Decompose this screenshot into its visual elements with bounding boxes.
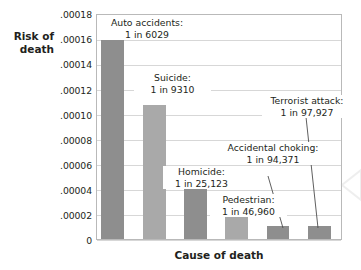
bar-terrorist-attack	[308, 226, 331, 239]
data-label-auto-accidents: Auto accidents: 1 in 6029	[100, 17, 194, 40]
gridline	[97, 240, 341, 241]
y-tick-label: .00008	[48, 135, 92, 146]
y-tick-label: .00004	[48, 185, 92, 196]
data-label-accidental-choking: Accidental choking: 1 in 94,371	[222, 142, 324, 165]
y-tick-label: .00014	[48, 59, 92, 70]
gridline	[97, 65, 341, 66]
y-tick-label: .00012	[48, 85, 92, 96]
bar-accidental-choking	[267, 226, 289, 239]
data-label-suicide: Suicide: 1 in 9310	[134, 72, 211, 95]
y-axis-tick-labels: .00018 .00016 .00014 .00012 .00010 .0000…	[46, 0, 92, 270]
y-tick-label: .00006	[48, 160, 92, 171]
data-label-pedestrian: Pedestrian: 1 in 46,960	[210, 194, 287, 217]
watermark-artifact	[340, 168, 361, 202]
y-tick-label: .00002	[48, 210, 92, 221]
gridline	[97, 140, 341, 141]
x-axis-title: Cause of death	[96, 249, 342, 261]
y-tick-label: .00018	[48, 9, 92, 20]
y-tick-label: 0	[48, 235, 92, 246]
bar-auto-accidents	[101, 33, 124, 239]
bar-chart: Risk of death .00018 .00016 .00014 .0001…	[0, 0, 361, 270]
data-label-terrorist-attack: Terrorist attack: 1 in 97,927	[262, 95, 352, 118]
y-tick-label: .00016	[48, 34, 92, 45]
data-label-homicide: Homicide: 1 in 25,123	[163, 166, 240, 189]
gridline	[97, 190, 341, 191]
bar-homicide	[184, 189, 207, 239]
y-tick-label: .00010	[48, 110, 92, 121]
gridline	[97, 40, 341, 41]
